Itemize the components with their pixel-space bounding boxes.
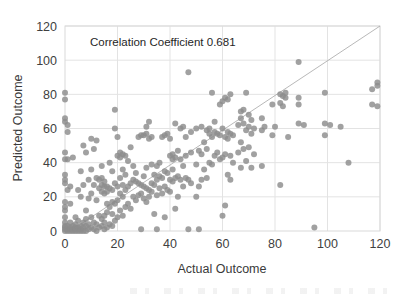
scatter-point — [172, 206, 178, 212]
scatter-point — [86, 177, 92, 183]
scatter-point — [280, 103, 286, 109]
scatter-point — [112, 126, 118, 132]
scatter-point — [67, 201, 73, 207]
scatter-point — [283, 90, 289, 96]
scatter-point — [133, 170, 139, 176]
scatter-point — [246, 144, 252, 150]
y-tick-label: 120 — [36, 20, 57, 34]
scatter-point — [178, 156, 184, 162]
scatter-point — [248, 165, 254, 171]
scatter-point — [199, 124, 205, 130]
scatter-point — [180, 124, 186, 130]
scatter-point — [322, 132, 328, 138]
scatter-chart-figure: 020406080100120 020406080100120 Correlat… — [0, 0, 412, 296]
scatter-point — [322, 90, 328, 96]
scatter-point — [285, 134, 291, 140]
scatter-point — [246, 112, 252, 118]
scatter-point — [188, 149, 194, 155]
scatter-point — [115, 184, 121, 190]
x-tick-label: 40 — [163, 237, 177, 251]
scatter-point — [209, 90, 215, 96]
scatter-point — [296, 95, 302, 101]
x-tick-label: 20 — [111, 237, 125, 251]
scatter-point — [67, 184, 73, 190]
scatter-point — [146, 194, 152, 200]
scatter-point — [243, 158, 249, 164]
scatter-point — [246, 124, 252, 130]
chart-canvas: 020406080100120 020406080100120 Correlat… — [0, 0, 412, 296]
scatter-point — [141, 173, 147, 179]
scatter-point — [109, 211, 115, 217]
scatter-point — [62, 199, 68, 205]
y-tick-label: 100 — [36, 54, 57, 68]
scatter-point — [201, 167, 207, 173]
scatter-point — [159, 190, 165, 196]
scatter-point — [199, 151, 205, 157]
scatter-point — [115, 197, 121, 203]
scatter-point — [301, 122, 307, 128]
scatter-point — [62, 204, 68, 210]
scatter-point — [175, 148, 181, 154]
scatter-point — [125, 201, 131, 207]
scatter-point — [259, 115, 265, 121]
scatter-point — [167, 136, 173, 142]
scatter-point — [162, 214, 168, 220]
scatter-point — [120, 194, 126, 200]
scatter-point — [154, 226, 160, 232]
scatter-point — [259, 163, 265, 169]
scatter-point — [88, 167, 94, 173]
scatter-point — [107, 204, 113, 210]
scatter-point — [251, 126, 257, 132]
scatter-point — [262, 124, 268, 130]
scatter-point — [214, 149, 220, 155]
x-tick-label: 0 — [62, 237, 69, 251]
scatter-point — [149, 134, 155, 140]
scatter-point — [227, 153, 233, 159]
scatter-point — [78, 168, 84, 174]
scatter-point — [138, 226, 144, 232]
scatter-point — [241, 146, 247, 152]
scatter-point — [65, 129, 71, 135]
scatter-point — [120, 167, 126, 173]
scatter-point — [157, 185, 163, 191]
scatter-point — [122, 153, 128, 159]
scatter-point — [241, 107, 247, 113]
scatter-point — [115, 214, 121, 220]
scatter-point — [149, 189, 155, 195]
scatter-point — [80, 143, 86, 149]
y-tick-label: 40 — [43, 156, 57, 170]
scatter-point — [220, 126, 226, 132]
scatter-point — [101, 219, 107, 225]
scatter-point — [243, 90, 249, 96]
scatter-point — [201, 139, 207, 145]
scatter-point — [104, 209, 110, 215]
scatter-point — [322, 120, 328, 126]
scatter-point — [311, 225, 317, 231]
scatter-point — [277, 182, 283, 188]
scatter-point — [193, 161, 199, 167]
scatter-point — [346, 160, 352, 166]
scatter-point — [188, 180, 194, 186]
scatter-point — [204, 146, 210, 152]
correlation-annotation: Correlation Coefficient 0.681 — [90, 36, 236, 48]
scatter-point — [225, 172, 231, 178]
scatter-point — [183, 134, 189, 140]
scatter-point — [225, 136, 231, 142]
scatter-point — [62, 115, 68, 121]
scatter-point — [91, 146, 97, 152]
scatter-point — [83, 216, 89, 222]
scatter-point — [235, 122, 241, 128]
scatter-point — [209, 134, 215, 140]
scatter-point — [75, 187, 81, 193]
scatter-point — [209, 161, 215, 167]
scatter-point — [248, 131, 254, 137]
scatter-point — [327, 122, 333, 128]
scatter-point — [248, 117, 254, 123]
scatter-point — [62, 96, 68, 102]
scatter-point — [369, 86, 375, 92]
scatter-point — [193, 194, 199, 200]
scatter-point — [83, 208, 89, 214]
scatter-point — [175, 194, 181, 200]
scatter-point — [94, 137, 100, 143]
scatter-point — [62, 177, 68, 183]
